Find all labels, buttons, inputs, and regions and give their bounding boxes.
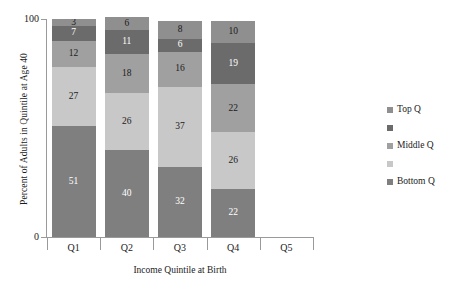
legend-swatch-icon: [387, 179, 393, 185]
bar-segment-value: 7: [71, 28, 76, 38]
legend-label: Bottom Q: [397, 177, 435, 187]
bar-segment-value: 18: [122, 69, 132, 79]
bar-segment-value: 10: [228, 27, 238, 37]
bar-segment-value: 26: [228, 156, 238, 166]
stacked-bar-chart: Percent of Adults in Quintile at Age 40 …: [0, 0, 454, 291]
legend-swatch-icon: [387, 161, 393, 167]
bar-segment-q3-s2[interactable]: 37: [158, 87, 202, 168]
x-axis-line: [46, 237, 314, 238]
chart-legend: Top QMiddle QBottom Q: [387, 101, 453, 191]
plot-area: 51271273402618116323716682226221910: [47, 19, 313, 237]
bar-segment-value: 22: [228, 208, 238, 218]
legend-swatch-icon: [387, 143, 393, 149]
bar-segment-value: 37: [175, 122, 185, 132]
y-tick-label-100: 100: [24, 14, 39, 24]
legend-item-middle-q[interactable]: Middle Q: [387, 137, 453, 155]
legend-label: Top Q: [397, 105, 421, 115]
bar-segment-q4-s3[interactable]: 22: [211, 84, 255, 132]
bar-segment-value: 16: [175, 64, 185, 74]
bar-segment-value: 40: [122, 189, 132, 199]
bar-segment-q2-s3[interactable]: 18: [105, 54, 149, 93]
bar-segment-value: 11: [122, 37, 131, 47]
x-axis-title: Income Quintile at Birth: [47, 265, 313, 275]
bar-segment-value: 12: [69, 49, 79, 59]
legend-item-bottom-q[interactable]: Bottom Q: [387, 173, 453, 191]
x-category-label-q3: Q3: [153, 243, 206, 253]
bar-segment-q3-s4[interactable]: 6: [158, 39, 202, 52]
bar-segment-q4-s5[interactable]: 10: [211, 21, 255, 43]
bar-column-q4[interactable]: 2226221910: [211, 21, 255, 237]
legend-item-series-4[interactable]: [387, 155, 453, 173]
bar-segment-value: 51: [69, 177, 79, 187]
bar-column-q2[interactable]: 402618116: [105, 17, 149, 237]
legend-item-top-q[interactable]: Top Q: [387, 101, 453, 119]
bar-segment-value: 22: [228, 104, 238, 114]
bar-segment-value: 3: [71, 19, 76, 26]
x-category-label-q1: Q1: [47, 243, 100, 253]
legend-label: Middle Q: [397, 141, 434, 151]
x-category-label-q5: Q5: [260, 243, 313, 253]
bar-segment-q3-s3[interactable]: 16: [158, 52, 202, 87]
bar-segment-value: 27: [69, 92, 79, 102]
bar-segment-q4-s4[interactable]: 19: [211, 43, 255, 84]
bar-column-q1[interactable]: 51271273: [52, 19, 96, 237]
bar-segment-q3-s1[interactable]: 32: [158, 167, 202, 237]
bar-column-q3[interactable]: 32371668: [158, 21, 202, 237]
bar-segment-q1-s2[interactable]: 27: [52, 67, 96, 126]
bar-segment-value: 26: [122, 117, 132, 127]
bar-segment-q3-s5[interactable]: 8: [158, 21, 202, 38]
bar-segment-q2-s1[interactable]: 40: [105, 150, 149, 237]
bar-segment-q1-s3[interactable]: 12: [52, 41, 96, 67]
bar-segment-value: 6: [124, 19, 129, 29]
bar-segment-q1-s1[interactable]: 51: [52, 126, 96, 237]
bar-segment-value: 8: [178, 25, 183, 35]
x-category-label-q4: Q4: [207, 243, 260, 253]
legend-swatch-icon: [387, 125, 393, 131]
bar-segment-q1-s5[interactable]: 3: [52, 19, 96, 26]
y-tick-label-0: 0: [34, 232, 39, 242]
y-tick-mark-100: [41, 19, 46, 20]
bar-segment-value: 19: [228, 59, 238, 69]
bar-segment-q1-s4[interactable]: 7: [52, 26, 96, 41]
x-category-label-q2: Q2: [100, 243, 153, 253]
bar-segment-q2-s5[interactable]: 6: [105, 17, 149, 30]
bar-segment-q2-s2[interactable]: 26: [105, 93, 149, 150]
legend-item-series-2[interactable]: [387, 119, 453, 137]
bar-segment-q4-s2[interactable]: 26: [211, 132, 255, 189]
x-tick-mark-5: [313, 237, 314, 250]
bar-segment-value: 32: [175, 197, 185, 207]
bar-segment-q4-s1[interactable]: 22: [211, 189, 255, 237]
legend-swatch-icon: [387, 107, 393, 113]
y-axis-title: Percent of Adults in Quintile at Age 40: [19, 19, 29, 239]
bar-segment-q2-s4[interactable]: 11: [105, 30, 149, 54]
bar-segment-value: 6: [178, 40, 183, 50]
